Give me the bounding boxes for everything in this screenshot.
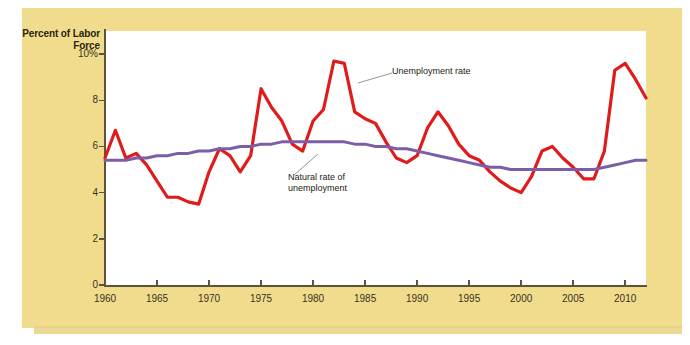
series-line-unemployment-rate: [105, 61, 646, 204]
unemployment-rate-leader-line: [358, 73, 392, 83]
series-line-natural-rate-of-unemployment: [105, 142, 646, 170]
annotation-natural-rate: Natural rate of unemployment: [288, 172, 347, 194]
figure-container: Percent of Labor Force 0246810% 19601965…: [0, 0, 690, 345]
annotation-unemployment-rate: Unemployment rate: [392, 66, 471, 77]
